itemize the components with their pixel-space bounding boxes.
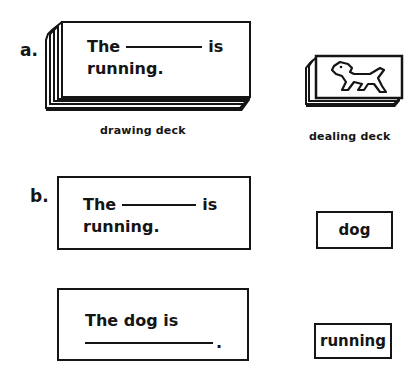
card-text-the-dog-is: The dog is bbox=[85, 311, 178, 330]
blank-line bbox=[122, 204, 196, 206]
part-b-label: b. bbox=[30, 186, 49, 206]
blank-line bbox=[85, 342, 213, 344]
word-card-dog[interactable]: dog bbox=[316, 211, 393, 249]
card-text-the: The bbox=[83, 195, 116, 214]
card-text-period: . bbox=[216, 333, 222, 352]
dealing-deck-caption: dealing deck bbox=[309, 130, 390, 143]
dog-icon bbox=[324, 60, 394, 96]
card-text-is: is bbox=[202, 195, 217, 214]
word-card-running[interactable]: running bbox=[314, 323, 392, 359]
card-text-running: running. bbox=[83, 217, 159, 236]
sentence-card-2[interactable]: The dog is . bbox=[57, 288, 249, 361]
sentence-card-1[interactable]: Theis running. bbox=[57, 176, 251, 250]
